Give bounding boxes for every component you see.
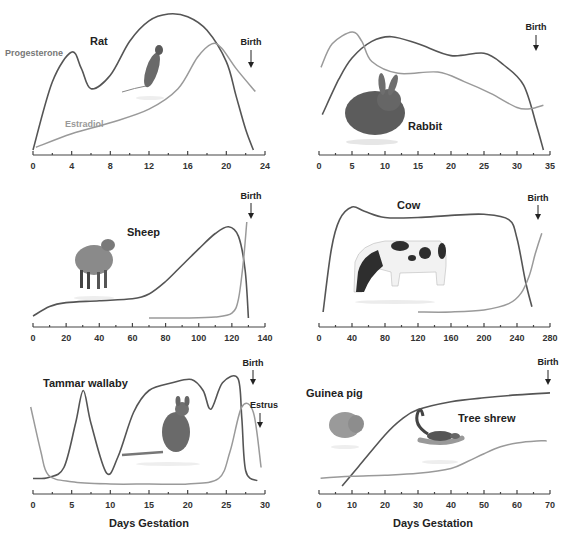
tick-label: 70: [545, 500, 555, 510]
guinea-pig-x-axis-title: Days Gestation: [393, 517, 473, 529]
rabbit-image: [345, 73, 405, 145]
tick-label: 12: [144, 161, 154, 171]
tick-label: 8: [108, 161, 113, 171]
tick-label: 30: [260, 500, 270, 510]
guinea-pig-image: [329, 412, 364, 449]
tick-label: 120: [410, 333, 425, 343]
tick-label: 30: [512, 161, 522, 171]
wallaby-estrus-label: Estrus: [250, 400, 278, 410]
tick-label: 30: [413, 500, 423, 510]
tick-label: 40: [347, 333, 357, 343]
guinea-pig-title: Guinea pig: [306, 387, 363, 399]
sheep-x-axis: 020406080100120140: [30, 323, 272, 343]
guinea-pig-x-axis: 010203040506070: [316, 490, 555, 510]
panel-guinea-pig: Guinea pig Tree shrew Birth 010203040506…: [306, 357, 559, 529]
tick-label: 10: [347, 500, 357, 510]
tick-label: 0: [316, 500, 321, 510]
tick-label: 20: [61, 333, 71, 343]
hormone-gestation-figure: Rat Progesterone Estradiol Birth 0481216…: [0, 0, 568, 538]
tick-label: 10: [105, 500, 115, 510]
tick-label: 60: [127, 333, 137, 343]
tick-label: 60: [512, 500, 522, 510]
cow-birth-label: Birth: [528, 193, 549, 203]
rat-birth-arrow-icon: [248, 50, 254, 68]
estradiol-label: Estradiol: [65, 119, 104, 129]
tick-label: 0: [30, 500, 35, 510]
progesterone-label: Progesterone: [5, 48, 63, 58]
tick-label: 280: [542, 333, 557, 343]
tick-label: 20: [183, 500, 193, 510]
tick-label: 100: [191, 333, 206, 343]
wallaby-x-axis: 051015202530: [30, 490, 270, 510]
rabbit-birth-label: Birth: [526, 22, 547, 32]
wallaby-estradiol-curve: [31, 403, 261, 484]
tick-label: 5: [349, 161, 354, 171]
sheep-title: Sheep: [127, 226, 160, 238]
tick-label: 25: [221, 500, 231, 510]
panel-cow: Cow Birth 04080120160200240280: [316, 193, 557, 343]
sheep-birth-label: Birth: [241, 191, 262, 201]
tick-label: 40: [446, 500, 456, 510]
tick-label: 25: [479, 161, 489, 171]
rabbit-progesterone-curve: [322, 37, 543, 150]
sheep-birth-arrow-icon: [248, 203, 254, 219]
tick-label: 140: [257, 333, 272, 343]
guinea-pig-birth-arrow-icon: [545, 370, 551, 385]
tick-label: 16: [183, 161, 193, 171]
tick-label: 0: [316, 333, 321, 343]
tick-label: 20: [380, 500, 390, 510]
tick-label: 120: [224, 333, 239, 343]
guinea-pig-birth-label: Birth: [538, 357, 559, 367]
sheep-progesterone-curve: [33, 227, 248, 318]
rat-x-axis: 04812162024: [30, 151, 270, 171]
rat-image: [122, 45, 164, 100]
tick-label: 200: [476, 333, 491, 343]
sheep-image: [74, 239, 115, 300]
wallaby-birth-label: Birth: [243, 358, 264, 368]
tick-label: 20: [446, 161, 456, 171]
wallaby-estrus-arrow-icon: [257, 413, 263, 428]
tree-shrew-image: [417, 410, 462, 464]
tick-label: 80: [161, 333, 171, 343]
panel-rabbit: Rabbit Birth 05101520253035: [316, 22, 555, 171]
cow-image: [354, 241, 446, 304]
tick-label: 10: [380, 161, 390, 171]
panel-tammar-wallaby: Tammar wallaby Birth Estrus 051015202530…: [30, 358, 278, 529]
tick-label: 0: [30, 333, 35, 343]
tick-label: 35: [545, 161, 555, 171]
rat-progesterone-curve: [33, 14, 253, 150]
rabbit-title: Rabbit: [408, 120, 443, 132]
cow-x-axis: 04080120160200240280: [316, 323, 557, 343]
wallaby-birth-arrow-icon: [250, 370, 256, 385]
rat-title: Rat: [90, 35, 108, 47]
wallaby-title: Tammar wallaby: [43, 377, 129, 389]
tick-label: 4: [69, 161, 74, 171]
panel-sheep: Sheep Birth 020406080100120140: [30, 191, 272, 343]
cow-title: Cow: [397, 199, 421, 211]
panel-rat: Rat Progesterone Estradiol Birth 0481216…: [5, 14, 270, 171]
tick-label: 20: [221, 161, 231, 171]
tick-label: 15: [413, 161, 423, 171]
tick-label: 40: [94, 333, 104, 343]
wallaby-image: [122, 396, 200, 466]
tick-label: 160: [443, 333, 458, 343]
tick-label: 24: [260, 161, 270, 171]
rat-birth-label: Birth: [241, 37, 262, 47]
tick-label: 0: [316, 161, 321, 171]
tick-label: 5: [69, 500, 74, 510]
tick-label: 240: [509, 333, 524, 343]
wallaby-x-axis-title: Days Gestation: [109, 517, 189, 529]
tick-label: 50: [479, 500, 489, 510]
tick-label: 15: [144, 500, 154, 510]
tick-label: 0: [30, 161, 35, 171]
rabbit-x-axis: 05101520253035: [316, 151, 555, 171]
tick-label: 80: [380, 333, 390, 343]
rabbit-birth-arrow-icon: [533, 35, 539, 51]
sheep-estradiol-curve: [149, 222, 247, 318]
tree-shrew-title: Tree shrew: [458, 412, 516, 424]
rat-estradiol-curve: [36, 43, 255, 147]
cow-birth-arrow-icon: [535, 205, 541, 220]
